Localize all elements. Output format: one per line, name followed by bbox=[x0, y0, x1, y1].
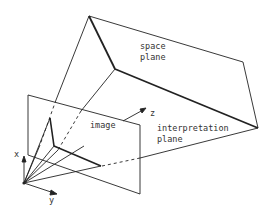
scene-edge bbox=[89, 16, 258, 128]
projection-diagram: space plane image z interpretation plane… bbox=[0, 0, 270, 213]
dashed-rays bbox=[40, 100, 140, 166]
projection-ray-inner bbox=[81, 69, 115, 111]
axis-z bbox=[123, 108, 146, 121]
space-plane-label-2: plane bbox=[140, 52, 166, 62]
axis-y-label: y bbox=[49, 195, 54, 205]
image-plane bbox=[28, 95, 140, 194]
axis-z-label: z bbox=[150, 108, 155, 118]
space-plane-label-1: space bbox=[140, 41, 166, 51]
origin-point bbox=[22, 181, 25, 184]
space-plane bbox=[56, 16, 258, 128]
interpretation-plane-label-2: plane bbox=[157, 134, 183, 144]
interpretation-plane-label-1: interpretation bbox=[157, 123, 229, 133]
axis-y bbox=[24, 183, 57, 195]
rays-from-origin bbox=[24, 145, 101, 183]
image-label: image bbox=[90, 120, 116, 130]
axis-x-label: x bbox=[14, 149, 19, 159]
